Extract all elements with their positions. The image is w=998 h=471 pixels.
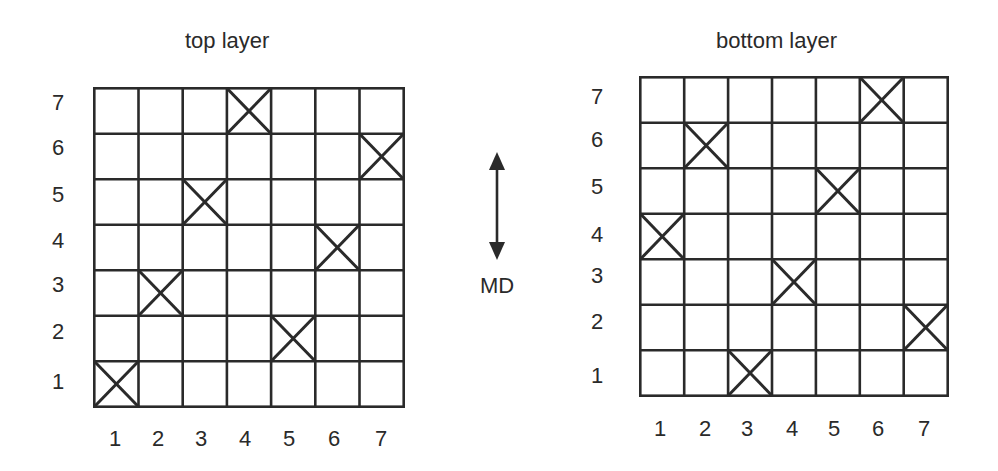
x-mark-icon — [684, 123, 728, 169]
y-label: 1 — [46, 370, 70, 394]
x-label: 7 — [912, 417, 936, 441]
y-label: 1 — [585, 364, 609, 388]
x-label: 3 — [735, 417, 759, 441]
y-label: 7 — [585, 85, 609, 109]
y-label: 6 — [585, 128, 609, 152]
x-label: 4 — [233, 427, 257, 451]
x-mark-icon — [94, 361, 138, 406]
md-label: MD — [472, 273, 522, 299]
x-mark-icon — [816, 168, 860, 214]
top-layer-title: top layer — [185, 28, 269, 54]
x-mark-icon — [315, 225, 359, 270]
double-headed-arrow-icon — [485, 152, 509, 260]
x-mark-icon — [772, 259, 816, 305]
y-label: 6 — [46, 136, 70, 160]
bottom-layer-title: bottom layer — [716, 28, 837, 54]
x-mark-icon — [227, 88, 271, 134]
bottom-layer-grid — [639, 76, 949, 397]
x-label: 5 — [277, 427, 301, 451]
y-label: 7 — [46, 91, 70, 115]
x-label: 2 — [693, 417, 717, 441]
x-mark-icon — [271, 316, 315, 362]
x-label: 6 — [866, 417, 890, 441]
top-layer-grid — [93, 87, 405, 408]
x-mark-icon — [139, 270, 183, 316]
x-label: 2 — [146, 427, 170, 451]
y-label: 3 — [585, 264, 609, 288]
y-label: 2 — [46, 320, 70, 344]
x-mark-icon — [183, 179, 227, 225]
x-mark-icon — [904, 305, 948, 351]
x-mark-icon — [360, 134, 404, 180]
top-layer-panel: top layer 7 6 5 4 3 2 1 — [0, 0, 450, 471]
x-label: 4 — [780, 417, 804, 441]
y-label: 4 — [585, 223, 609, 247]
x-label: 5 — [822, 417, 846, 441]
x-mark-icon — [860, 77, 904, 123]
y-label: 5 — [46, 183, 70, 207]
x-label: 7 — [369, 427, 393, 451]
x-label: 6 — [322, 427, 346, 451]
y-label: 3 — [46, 273, 70, 297]
x-mark-icon — [728, 350, 772, 395]
y-label: 2 — [585, 310, 609, 334]
y-label: 4 — [46, 229, 70, 253]
machine-direction-indicator: MD — [450, 140, 550, 320]
x-label: 3 — [189, 427, 213, 451]
x-label: 1 — [648, 417, 672, 441]
x-label: 1 — [103, 427, 127, 451]
x-mark-icon — [640, 214, 684, 259]
y-label: 5 — [585, 175, 609, 199]
